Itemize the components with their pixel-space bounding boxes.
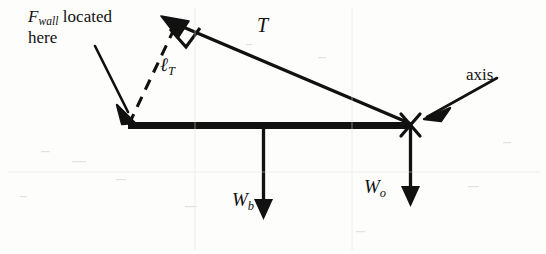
- fwall-pointer-arrow: [95, 46, 135, 124]
- tension-vector-shaft: [176, 24, 409, 123]
- weight-beam-arrow: [254, 127, 273, 220]
- fwall-symbol: F: [28, 7, 38, 26]
- fwall-pointer-shaft: [95, 46, 128, 112]
- fwall-label-line2: here: [28, 29, 57, 47]
- weight-object-symbol: W: [364, 176, 380, 197]
- fwall-subscript: wall: [38, 15, 58, 27]
- fwall-label: Fwall located: [28, 8, 112, 28]
- weight-beam-label: Wb: [232, 190, 254, 213]
- diagram-canvas: [0, 0, 546, 254]
- weight-object-label: Wo: [364, 177, 386, 200]
- weight-beam-arrowhead: [254, 199, 273, 220]
- weight-object-subscript: o: [380, 186, 386, 200]
- axis-pointer-arrow: [424, 78, 497, 121]
- physics-diagram: Fwall located here T ℓT axis Wb Wo: [0, 0, 546, 254]
- moment-arm-symbol: ℓ: [160, 54, 168, 75]
- moment-arm-label: ℓT: [160, 55, 175, 78]
- fwall-text-after: located: [59, 7, 112, 26]
- moment-arm-subscript: T: [168, 64, 175, 78]
- weight-beam-subscript: b: [248, 199, 254, 213]
- tension-label: T: [257, 15, 268, 37]
- weight-object-arrow: [401, 127, 420, 207]
- weight-object-arrowhead: [401, 186, 420, 207]
- axis-label: axis: [466, 66, 493, 84]
- weight-beam-symbol: W: [232, 189, 248, 210]
